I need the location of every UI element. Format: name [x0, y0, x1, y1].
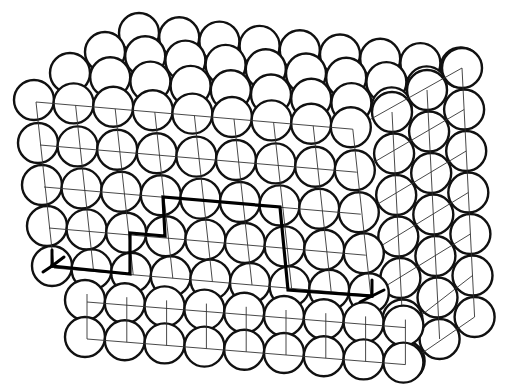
atom: [344, 233, 384, 273]
atom: [304, 336, 344, 376]
atom: [65, 280, 105, 320]
atom: [224, 330, 264, 370]
atom: [105, 320, 145, 360]
lattice-diagram: [0, 0, 512, 390]
atom: [97, 130, 137, 170]
atom: [172, 94, 212, 134]
atom: [14, 80, 54, 120]
atom: [184, 290, 224, 330]
atom: [291, 104, 331, 144]
crystal-lattice-figure: [0, 0, 512, 390]
atom: [212, 97, 252, 137]
atom: [105, 283, 145, 323]
atom: [133, 90, 173, 130]
atom: [145, 323, 185, 363]
atom: [304, 299, 344, 339]
atom: [27, 206, 67, 246]
atom: [299, 189, 339, 229]
atom: [185, 220, 225, 260]
atom: [383, 306, 423, 346]
atom: [141, 175, 181, 215]
atom: [331, 107, 371, 147]
atom: [54, 83, 94, 123]
atom: [344, 339, 384, 379]
atom: [304, 230, 344, 270]
atom: [184, 327, 224, 367]
atom: [344, 302, 384, 342]
atom: [137, 133, 177, 173]
atom: [58, 126, 98, 166]
front-atoms: [14, 80, 423, 383]
atom: [176, 137, 216, 177]
atom: [65, 317, 105, 357]
atom: [383, 343, 423, 383]
atom: [145, 286, 185, 326]
atom: [93, 87, 133, 127]
atom: [252, 100, 292, 140]
atom: [18, 123, 58, 163]
atom: [264, 296, 304, 336]
atom: [256, 143, 296, 183]
atom: [225, 223, 265, 263]
atom: [62, 168, 102, 208]
atom: [295, 147, 335, 187]
atom: [101, 172, 141, 212]
atom: [67, 209, 107, 249]
atom: [22, 165, 62, 205]
atom: [264, 333, 304, 373]
atom: [216, 140, 256, 180]
atom: [335, 150, 375, 190]
atom: [339, 192, 379, 232]
atom: [224, 293, 264, 333]
